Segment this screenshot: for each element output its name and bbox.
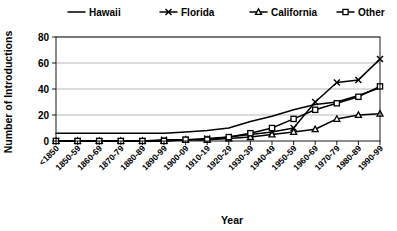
y-tick-label: 40	[38, 84, 50, 95]
square-marker-icon	[248, 131, 253, 136]
square-marker-icon	[343, 9, 348, 14]
square-marker-icon	[269, 125, 274, 130]
triangle-marker-icon	[355, 112, 361, 118]
x-axis-ticks: <18501850-591860-691870-791880-891890-99…	[37, 141, 385, 172]
square-marker-icon	[356, 94, 361, 99]
legend-label: Other	[358, 7, 385, 18]
series-hawaii	[56, 88, 380, 134]
square-marker-icon	[334, 101, 339, 106]
triangle-marker-icon	[256, 9, 262, 15]
legend-item-california[interactable]: California	[250, 7, 318, 18]
x-axis-title: Year	[221, 214, 243, 226]
series-line	[56, 114, 380, 141]
legend-item-hawaii[interactable]: Hawaii	[68, 7, 121, 18]
series-line	[56, 88, 380, 134]
series-other	[53, 84, 382, 144]
square-marker-icon	[226, 135, 231, 140]
data-series-group	[53, 56, 383, 144]
y-axis-ticks: 020406080	[38, 32, 56, 147]
chart-legend: HawaiiFloridaCaliforniaOther	[68, 7, 385, 18]
legend-label: Florida	[181, 7, 215, 18]
legend-item-florida[interactable]: Florida	[160, 7, 215, 18]
chart-canvas: HawaiiFloridaCaliforniaOther 020406080 <…	[0, 0, 397, 231]
legend-item-other[interactable]: Other	[337, 7, 385, 18]
square-marker-icon	[313, 107, 318, 112]
legend-label: California	[271, 7, 318, 18]
legend-label: Hawaii	[89, 7, 121, 18]
y-tick-label: 80	[38, 32, 50, 43]
y-axis-title: Number of Introductions	[2, 31, 14, 154]
square-marker-icon	[291, 116, 296, 121]
triangle-marker-icon	[334, 116, 340, 122]
line-chart: HawaiiFloridaCaliforniaOther 020406080 <…	[0, 0, 397, 231]
series-florida	[53, 56, 383, 144]
y-tick-label: 60	[38, 58, 50, 69]
y-tick-label: 0	[43, 136, 49, 147]
triangle-marker-icon	[312, 126, 318, 132]
y-tick-label: 20	[38, 110, 50, 121]
